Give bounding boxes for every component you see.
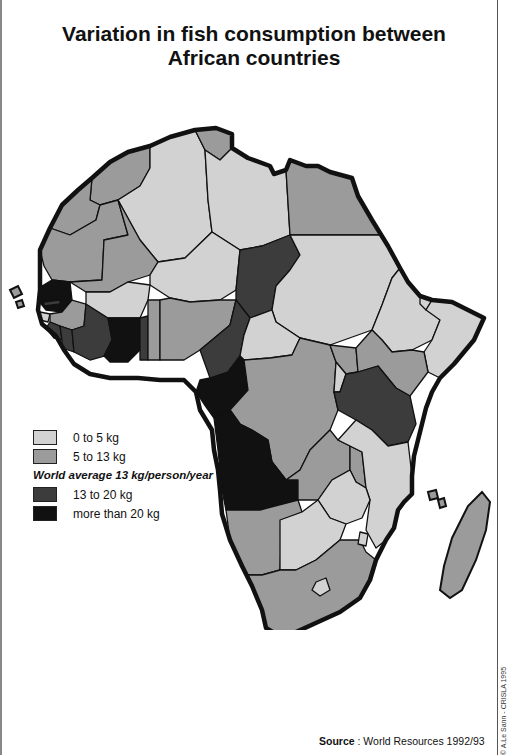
world-average-note: World average 13 kg/person/year — [33, 468, 213, 483]
legend-swatch-very-high — [33, 506, 57, 521]
region-cape-verde — [10, 286, 24, 308]
region-swaziland — [358, 532, 368, 546]
source-text: : World Resources 1992/93 — [355, 735, 485, 747]
region-madagascar — [440, 492, 490, 598]
legend-swatch-low — [33, 430, 57, 445]
source-label: Source — [319, 735, 355, 747]
map-title: Variation in fish consumption between Af… — [0, 22, 508, 70]
legend-label-very-high: more than 20 kg — [73, 507, 160, 521]
title-line-1: Variation in fish consumption between — [0, 22, 508, 46]
world-average-row: World average 13 kg/person/year — [33, 466, 213, 485]
copyright-credit: © A.Le Sann - CRISLA 1995 — [500, 667, 507, 755]
legend-item-mid: 5 to 13 kg — [33, 447, 213, 466]
legend-label-high: 13 to 20 kg — [73, 488, 132, 502]
legend-item-high: 13 to 20 kg — [33, 485, 213, 504]
legend-label-low: 0 to 5 kg — [73, 431, 119, 445]
legend-item-low: 0 to 5 kg — [33, 428, 213, 447]
legend-label-mid: 5 to 13 kg — [73, 450, 126, 464]
map-legend: 0 to 5 kg 5 to 13 kg World average 13 kg… — [33, 428, 213, 523]
region-benin — [148, 300, 160, 360]
source-note: Source : World Resources 1992/93 — [319, 735, 485, 747]
region-togo — [140, 316, 148, 360]
legend-swatch-high — [33, 487, 57, 502]
title-line-2: African countries — [0, 46, 508, 70]
legend-swatch-mid — [33, 449, 57, 464]
legend-item-very-high: more than 20 kg — [33, 504, 213, 523]
region-comoros — [428, 490, 446, 508]
region-libya — [205, 148, 290, 250]
africa-map — [0, 90, 508, 630]
